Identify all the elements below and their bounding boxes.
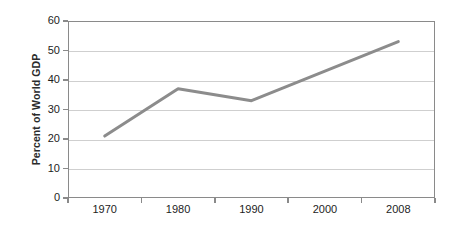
series-polyline [105, 42, 399, 136]
y-axis-tick-label: 20 [28, 132, 60, 144]
x-axis-tick-label: 1980 [141, 203, 214, 215]
y-axis-tick-label: 10 [28, 162, 60, 174]
x-axis-tick-label: 2000 [288, 203, 361, 215]
y-axis-tick-label: 30 [28, 103, 60, 115]
y-axis-tick-label: 60 [28, 14, 60, 26]
line-chart: Percent of World GDP 0102030405060 19701… [0, 0, 462, 238]
x-axis-tick-label: 2008 [362, 203, 435, 215]
y-axis-tick-label: 0 [28, 191, 60, 203]
x-axis-tick-label: 1990 [215, 203, 288, 215]
y-axis-tick-label: 40 [28, 73, 60, 85]
x-axis-tick-label: 1970 [68, 203, 141, 215]
y-axis-tick-label: 50 [28, 44, 60, 56]
data-series-line [68, 21, 435, 198]
